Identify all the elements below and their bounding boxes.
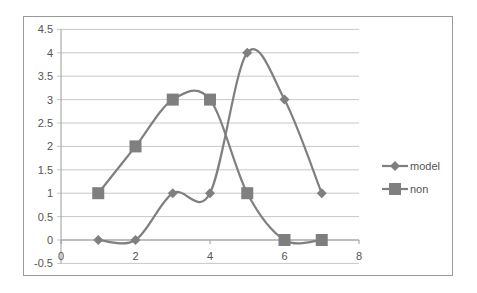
square-marker-icon [316, 234, 328, 246]
x-tick-label: 2 [132, 250, 138, 262]
y-tick-label: 2 [47, 140, 53, 152]
y-axis-ticks: 4.543.532.521.510.50-0.5 [34, 23, 53, 269]
square-marker-icon [241, 187, 253, 199]
legend-label: non [410, 183, 428, 195]
diamond-marker-icon [317, 188, 327, 198]
square-marker-icon [204, 94, 216, 106]
square-marker-icon [279, 234, 291, 246]
series-line [98, 91, 322, 244]
y-tick-label: 3 [47, 94, 53, 106]
legend-item-non: non [382, 183, 428, 195]
y-tick-label: 3.5 [38, 70, 53, 82]
y-tick-label: 1 [47, 187, 53, 199]
y-tick-label: 1.5 [38, 164, 53, 176]
y-tick-label: 2.5 [38, 117, 53, 129]
legend-item-model: model [382, 160, 440, 172]
y-tick-label: 4.5 [38, 23, 53, 35]
legend-label: model [410, 160, 440, 172]
square-marker-icon [389, 183, 401, 195]
x-tick-label: 0 [58, 250, 64, 262]
y-tick-label: 0.5 [38, 211, 53, 223]
gridlines [57, 29, 359, 263]
diamond-marker-icon [280, 95, 290, 105]
square-marker-icon [130, 140, 142, 152]
diamond-marker-icon [93, 235, 103, 245]
y-tick-label: -0.5 [34, 257, 53, 269]
x-tick-label: 6 [281, 250, 287, 262]
line-chart: 4.543.532.521.510.50-0.5 02468 modelnon [0, 0, 477, 293]
x-tick-label: 4 [207, 250, 213, 262]
y-tick-label: 0 [47, 234, 53, 246]
x-tick-label: 8 [356, 250, 362, 262]
series-non [92, 91, 328, 246]
diamond-marker-icon [390, 161, 400, 171]
legend: modelnon [382, 160, 440, 195]
square-marker-icon [92, 187, 104, 199]
square-marker-icon [167, 94, 179, 106]
y-tick-label: 4 [47, 47, 53, 59]
